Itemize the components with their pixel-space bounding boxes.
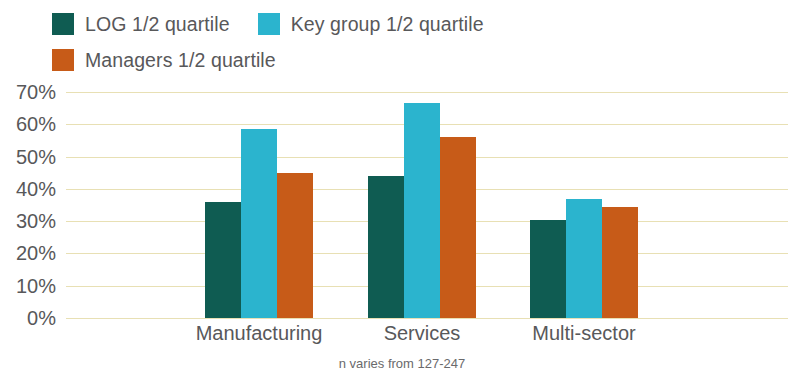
legend-label-key-group: Key group 1/2 quartile bbox=[291, 13, 484, 36]
bar-group bbox=[205, 92, 313, 318]
bar bbox=[530, 220, 566, 318]
y-axis-tick-label: 60% bbox=[0, 113, 56, 136]
bar bbox=[602, 207, 638, 318]
x-axis-category-labels: ManufacturingServicesMulti-sector bbox=[0, 322, 804, 354]
bar-group bbox=[368, 92, 476, 318]
bar bbox=[368, 176, 404, 318]
y-axis-tick-label: 50% bbox=[0, 145, 56, 168]
y-axis-tick-label: 40% bbox=[0, 177, 56, 200]
bar bbox=[277, 173, 313, 318]
bar bbox=[241, 129, 277, 318]
y-axis-tick-label: 10% bbox=[0, 274, 56, 297]
legend-swatch-managers-icon bbox=[52, 49, 74, 71]
legend-row: LOG 1/2 quartile Key group 1/2 quartile bbox=[52, 6, 752, 42]
bar bbox=[440, 137, 476, 318]
legend-label-managers: Managers 1/2 quartile bbox=[85, 49, 276, 72]
y-axis-tick-label: 70% bbox=[0, 81, 56, 104]
legend-swatch-key-group-icon bbox=[258, 13, 280, 35]
plot-area bbox=[66, 92, 788, 318]
x-axis-label-multi-sector: Multi-sector bbox=[464, 322, 704, 345]
legend-item-log: LOG 1/2 quartile bbox=[52, 13, 230, 36]
bar bbox=[404, 103, 440, 318]
legend-label-log: LOG 1/2 quartile bbox=[85, 13, 230, 36]
legend-item-managers: Managers 1/2 quartile bbox=[52, 49, 276, 72]
bars-layer bbox=[66, 92, 788, 318]
bar bbox=[205, 202, 241, 318]
chart-footnote: n varies from 127-247 bbox=[0, 356, 804, 371]
chart-legend: LOG 1/2 quartile Key group 1/2 quartile … bbox=[52, 6, 752, 78]
legend-item-key-group: Key group 1/2 quartile bbox=[258, 13, 484, 36]
legend-swatch-log-icon bbox=[52, 13, 74, 35]
y-axis-tick-label: 30% bbox=[0, 210, 56, 233]
y-axis-tick-label: 20% bbox=[0, 242, 56, 265]
legend-row: Managers 1/2 quartile bbox=[52, 42, 752, 78]
bar-chart-figure: LOG 1/2 quartile Key group 1/2 quartile … bbox=[0, 0, 804, 378]
bar-group bbox=[530, 92, 638, 318]
gridline bbox=[66, 318, 788, 319]
bar bbox=[566, 199, 602, 318]
